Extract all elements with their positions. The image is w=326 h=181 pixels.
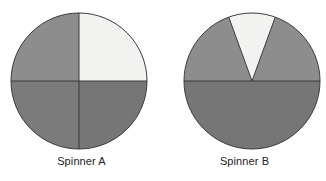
spinners-figure: Spinner A Spinner B [0, 0, 326, 181]
spinner-a-slice-lower-right [79, 81, 147, 149]
spinner-b-diagram [163, 0, 326, 155]
spinner-a-group: Spinner A [0, 0, 163, 181]
spinner-b-caption: Spinner B [163, 154, 326, 168]
spinner-b-group: Spinner B [163, 0, 326, 181]
spinner-b-slice-bottom-half [184, 81, 320, 149]
spinner-a-slice-upper-right [79, 13, 147, 81]
spinner-a-caption: Spinner A [0, 154, 163, 168]
spinner-a-slice-upper-left [11, 13, 79, 81]
spinner-a-slice-lower-left [11, 81, 79, 149]
spinner-a-diagram [0, 0, 163, 155]
